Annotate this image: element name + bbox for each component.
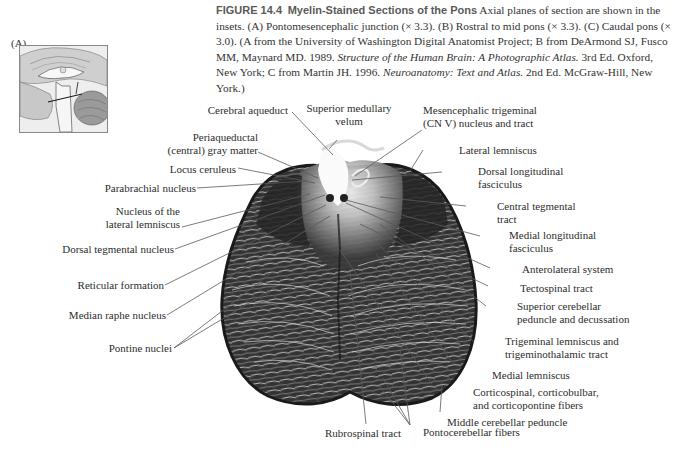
label-superior-cerebellar-peduncle: Superior cerebellar peduncle and decussa…: [517, 300, 629, 325]
label-nucleus-lateral-lemniscus: Nucleus of the lateral lemniscus: [60, 205, 180, 230]
label-central-tegmental-tract: Central tegmental tract: [497, 200, 576, 225]
label-reticular-formation: Reticular formation: [40, 279, 164, 292]
label-median-raphe-nucleus: Median raphe nucleus: [30, 309, 166, 322]
label-anterolateral-system: Anterolateral system: [522, 263, 613, 276]
pons-specimen: [222, 141, 476, 404]
label-medial-longitudinal-fasciculus: Medial longitudinal fasciculus: [509, 229, 596, 254]
label-pontine-nuclei: Pontine nuclei: [80, 342, 172, 355]
label-medial-lemniscus: Medial lemniscus: [492, 369, 570, 382]
label-lateral-lemniscus: Lateral lemniscus: [459, 144, 537, 157]
label-parabrachial-nucleus: Parabrachial nucleus: [60, 182, 196, 195]
label-rubrospinal-tract: Rubrospinal tract: [325, 427, 401, 440]
label-dorsal-tegmental-nucleus: Dorsal tegmental nucleus: [20, 243, 174, 256]
label-dorsal-longitudinal-fasciculus: Dorsal longitudinal fasciculus: [478, 165, 563, 190]
label-periaqueductal-gray: Periaqueductal (central) gray matter: [140, 131, 258, 156]
label-superior-medullary-velum: Superior medullary velum: [296, 102, 402, 127]
label-corticospinal-fibers: Corticospinal, corticobulbar, and cortic…: [473, 386, 599, 411]
label-pontocerebellar-fibers: Pontocerebellar fibers: [423, 426, 520, 439]
label-locus-ceruleus: Locus ceruleus: [140, 163, 236, 176]
label-trigeminal-lemniscus: Trigeminal lemniscus and trigeminothalam…: [505, 335, 619, 360]
label-cerebral-aqueduct: Cerebral aqueduct: [158, 104, 288, 117]
label-tectospinal-tract: Tectospinal tract: [520, 282, 593, 295]
label-mesencephalic-trigeminal: Mesencephalic trigeminal (CN V) nucleus …: [423, 104, 537, 129]
